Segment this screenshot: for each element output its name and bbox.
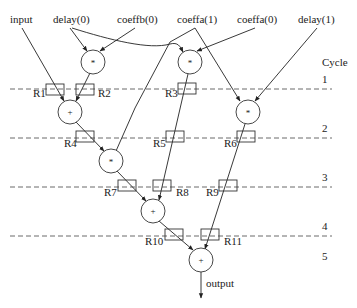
edges	[22, 28, 317, 298]
input-label: input	[10, 13, 33, 25]
cycle-label-5: 5	[322, 250, 328, 262]
register-label-r2: R2	[98, 87, 111, 99]
cycle-label-3: 3	[322, 171, 328, 183]
dataflow-schedule-diagram: Cycle 1 2 3 4 5 input delay(0) coeffb(0)…	[0, 0, 357, 308]
register-label-r6: R6	[224, 137, 237, 149]
cycle-header: Cycle	[322, 56, 348, 68]
register-label-r4: R4	[64, 137, 77, 149]
register-label-r10: R10	[145, 235, 164, 247]
multiply-symbol: *	[109, 157, 114, 167]
register-label-r1: R1	[33, 87, 46, 99]
coeffb0-label: coeffb(0)	[117, 13, 158, 26]
register-label-r5: R5	[153, 137, 166, 149]
cycle-label-1: 1	[322, 73, 328, 85]
register-r3	[178, 83, 196, 94]
cycle-label-4: 4	[322, 220, 328, 232]
multiply-symbol: *	[188, 58, 193, 68]
multiply-symbol: *	[91, 58, 96, 68]
register-r4	[76, 131, 94, 142]
register-r5	[166, 131, 184, 142]
register-label-r3: R3	[165, 87, 178, 99]
register-label-r11: R11	[224, 235, 242, 247]
register-label-r7: R7	[104, 186, 117, 198]
register-r10	[165, 229, 183, 240]
register-r9	[219, 180, 237, 191]
delay0-label: delay(0)	[53, 13, 90, 26]
register-label-r9: R9	[206, 186, 219, 198]
cycle-label-2: 2	[322, 122, 328, 134]
register-r2	[76, 84, 94, 95]
coeffa0-label: coeffa(0)	[237, 13, 277, 26]
multiply-symbol: *	[246, 108, 251, 118]
output-label: output	[206, 277, 234, 289]
coeffa1-label: coeffa(1)	[177, 13, 217, 26]
add-symbol: +	[67, 107, 72, 117]
add-symbol: +	[150, 206, 155, 216]
delay1-label: delay(1)	[298, 13, 335, 26]
register-label-r8: R8	[176, 186, 189, 198]
add-symbol: +	[198, 255, 203, 265]
